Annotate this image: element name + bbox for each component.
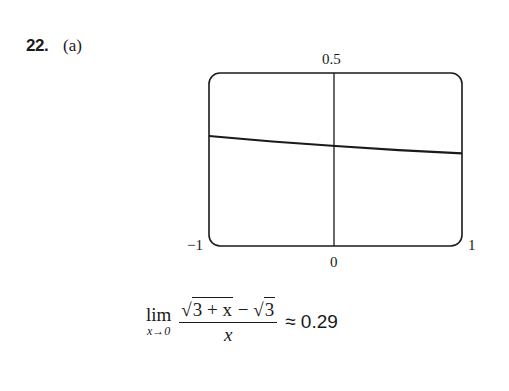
- x-min-tick-label: −1: [187, 237, 203, 254]
- lim-word: lim: [146, 306, 171, 324]
- x-zero-tick-label: 0: [330, 254, 338, 271]
- function-curve: [209, 136, 462, 153]
- viewing-rectangle: [209, 73, 462, 246]
- fraction: √3 + x − √3 x: [179, 297, 277, 347]
- x-max-tick-label: 1: [468, 237, 476, 254]
- y-max-tick-label: 0.5: [322, 51, 341, 68]
- denominator: x: [224, 323, 232, 347]
- sqrt-3-plus-x: √3 + x: [181, 297, 233, 322]
- numerator: √3 + x − √3: [179, 297, 277, 322]
- radicand-1: 3 + x: [192, 297, 233, 322]
- sqrt-3: √3: [253, 297, 275, 322]
- limit-formula: lim x→0 √3 + x − √3 x ≈ 0.29: [146, 297, 338, 347]
- approx-value: ≈ 0.29: [285, 311, 338, 333]
- limit-operator: lim x→0: [146, 306, 171, 338]
- radicand-2: 3: [264, 297, 276, 322]
- minus-sign: −: [233, 298, 253, 322]
- lim-subscript: x→0: [147, 324, 170, 338]
